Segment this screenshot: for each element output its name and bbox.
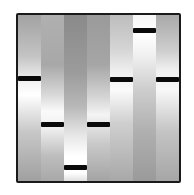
band-marker [87, 122, 110, 127]
band-marker [133, 28, 156, 33]
lane-6 [133, 15, 156, 181]
lane-7 [156, 15, 179, 181]
lane-2 [41, 15, 64, 181]
band-marker [110, 77, 133, 82]
band-marker [18, 76, 41, 81]
band-marker [64, 165, 87, 170]
band-marker [156, 77, 179, 82]
band-marker [41, 122, 64, 127]
lane-3 [64, 15, 87, 181]
lane-5 [110, 15, 133, 181]
lane-1 [18, 15, 41, 181]
gel-frame [16, 13, 181, 183]
lane-4 [87, 15, 110, 181]
